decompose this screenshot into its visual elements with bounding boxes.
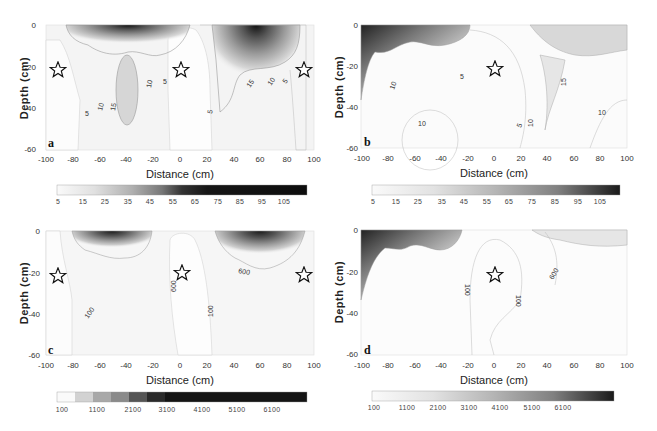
colorbar-ticks-b: 5 15 25 35 45 55 65 75 85 95 105 <box>371 198 606 205</box>
colorbar-b <box>372 185 620 195</box>
x-ticks-c: -100 -80 -60 -40 -20 0 20 40 60 80 100 <box>38 361 321 370</box>
contour-label: 600 <box>170 280 177 292</box>
svg-text:-40: -40 <box>346 103 358 112</box>
contour-label: 100 <box>207 305 214 317</box>
contour-label: 5 <box>460 73 464 80</box>
svg-text:105: 105 <box>594 198 607 205</box>
svg-text:-80: -80 <box>382 154 394 163</box>
x-axis-label: Distance (cm) <box>146 374 214 386</box>
svg-text:1100: 1100 <box>89 406 105 413</box>
svg-text:95: 95 <box>258 198 266 205</box>
y-ticks-b: 0 -20 -40 -60 <box>346 21 358 153</box>
svg-text:0: 0 <box>32 21 37 30</box>
colorbar-ticks-a: 5 15 25 35 45 55 65 75 85 95 105 <box>56 198 290 205</box>
svg-text:-40: -40 <box>28 310 40 319</box>
svg-text:100: 100 <box>56 406 69 413</box>
svg-text:20: 20 <box>203 361 212 370</box>
svg-text:45: 45 <box>460 198 468 205</box>
svg-text:-20: -20 <box>462 361 474 370</box>
svg-text:5: 5 <box>56 198 60 205</box>
svg-text:100: 100 <box>307 361 321 370</box>
x-axis-label: Distance (cm) <box>460 374 528 386</box>
svg-text:-40: -40 <box>435 154 447 163</box>
x-axis-label: Distance (cm) <box>460 167 528 179</box>
svg-text:1100: 1100 <box>399 404 415 411</box>
contour-label: 100 <box>464 284 471 296</box>
svg-text:25: 25 <box>414 198 422 205</box>
svg-text:4100: 4100 <box>492 404 509 411</box>
svg-text:-60: -60 <box>409 361 421 370</box>
svg-text:80: 80 <box>596 361 605 370</box>
y-axis-label: Depth (cm) <box>333 261 345 323</box>
svg-text:100: 100 <box>368 404 381 411</box>
svg-text:-20: -20 <box>147 155 159 164</box>
svg-text:-60: -60 <box>346 144 358 153</box>
svg-text:-40: -40 <box>346 309 358 318</box>
colorbar-ticks-d: 100 1100 2100 3100 4100 5100 6100 <box>368 404 572 411</box>
x-ticks-d: -100 -80 -60 -40 -20 0 20 40 60 80 100 <box>354 361 634 370</box>
svg-text:-60: -60 <box>346 350 358 359</box>
svg-text:60: 60 <box>256 155 265 164</box>
contour-label: 15 <box>560 78 567 86</box>
svg-text:65: 65 <box>191 198 199 205</box>
contour-15-closed <box>116 55 138 125</box>
svg-text:100: 100 <box>307 155 321 164</box>
svg-text:6100: 6100 <box>555 404 572 411</box>
svg-text:95: 95 <box>574 198 582 205</box>
svg-text:-60: -60 <box>94 155 106 164</box>
svg-text:5100: 5100 <box>229 406 246 413</box>
svg-text:-20: -20 <box>462 154 474 163</box>
svg-text:6100: 6100 <box>264 406 281 413</box>
colorbar-c <box>57 392 307 402</box>
x-ticks-a: -100 -80 -60 -40 -20 0 20 40 60 80 100 <box>38 155 321 164</box>
svg-text:20: 20 <box>517 361 526 370</box>
svg-text:-20: -20 <box>147 361 159 370</box>
svg-text:60: 60 <box>570 361 579 370</box>
svg-text:3100: 3100 <box>159 406 176 413</box>
svg-text:-20: -20 <box>28 269 40 278</box>
svg-text:0: 0 <box>354 226 359 235</box>
contour-label: 5 <box>163 78 167 85</box>
y-axis-label: Depth (cm) <box>18 57 30 119</box>
svg-text:20: 20 <box>517 154 526 163</box>
svg-text:85: 85 <box>236 198 244 205</box>
svg-text:105: 105 <box>278 198 291 205</box>
svg-text:-100: -100 <box>354 154 371 163</box>
svg-text:-60: -60 <box>409 154 421 163</box>
svg-text:40: 40 <box>543 361 552 370</box>
svg-text:-40: -40 <box>120 155 132 164</box>
svg-text:-60: -60 <box>24 145 36 154</box>
panel-a: 5 10 15 10 5 5 15 10 5 a 0 -20 -40 -60 -… <box>18 21 321 205</box>
colorbar-ticks-c: 100 1100 2100 3100 4100 5100 6100 <box>56 406 281 413</box>
svg-text:-100: -100 <box>354 361 371 370</box>
svg-text:-60: -60 <box>28 351 40 360</box>
panel-label: a <box>48 136 54 150</box>
panel-label: d <box>364 343 371 357</box>
svg-text:-100: -100 <box>38 361 55 370</box>
panel-b: 10 5 10 5 10 15 10 b 0 -20 -40 -60 -100 … <box>333 21 634 205</box>
svg-text:75: 75 <box>214 198 222 205</box>
y-ticks-d: 0 -20 -40 -60 <box>346 226 358 359</box>
panel-label: b <box>364 135 371 149</box>
svg-text:35: 35 <box>438 198 446 205</box>
svg-text:40: 40 <box>230 361 239 370</box>
svg-text:0: 0 <box>178 361 183 370</box>
figure-canvas: 5 10 15 10 5 5 15 10 5 a 0 -20 -40 -60 -… <box>0 0 657 431</box>
svg-text:0: 0 <box>178 155 183 164</box>
svg-text:40: 40 <box>543 154 552 163</box>
panel-c: 100 600 100 600 c 0 -20 -40 -60 -100 -80… <box>18 227 321 413</box>
svg-text:80: 80 <box>283 361 292 370</box>
svg-text:25: 25 <box>101 198 109 205</box>
svg-text:5100: 5100 <box>524 404 541 411</box>
svg-text:15: 15 <box>392 198 400 205</box>
svg-text:55: 55 <box>483 198 491 205</box>
svg-text:-40: -40 <box>120 361 132 370</box>
svg-text:80: 80 <box>283 155 292 164</box>
svg-text:0: 0 <box>492 361 497 370</box>
svg-text:2100: 2100 <box>430 404 447 411</box>
contour-label: 5 <box>85 110 89 117</box>
svg-text:60: 60 <box>256 361 265 370</box>
colorbar-d <box>372 391 614 401</box>
y-ticks-c: 0 -20 -40 -60 <box>28 227 40 360</box>
svg-text:-20: -20 <box>346 268 358 277</box>
